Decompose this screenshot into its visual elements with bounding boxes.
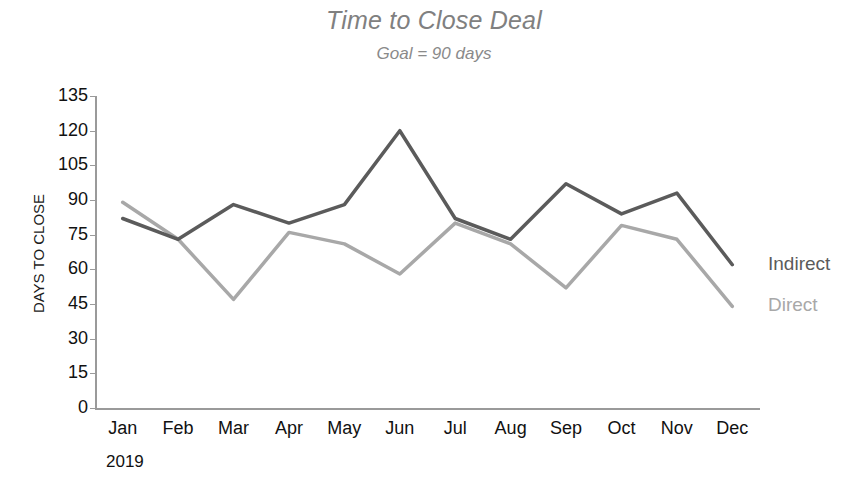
- series-line-indirect: [123, 131, 733, 265]
- legend-label-indirect: Indirect: [768, 253, 830, 275]
- chart-container: Time to Close Deal Goal = 90 days DAYS T…: [0, 0, 868, 493]
- plot-area: [0, 0, 868, 493]
- legend-label-direct: Direct: [768, 294, 818, 316]
